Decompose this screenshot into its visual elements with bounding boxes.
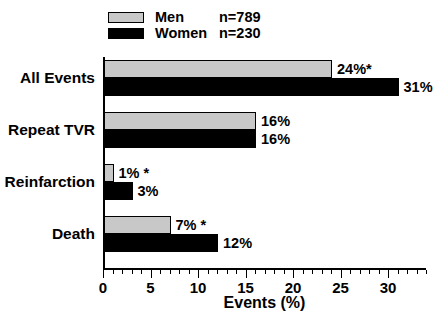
x-axis-minor-tick — [312, 270, 313, 274]
x-axis-minor-tick — [170, 270, 171, 274]
bar-men-reinfarction — [104, 164, 114, 182]
plot-area: 05101520253024%*31%16%16%1% *3%7% *12% — [103, 57, 426, 268]
y-axis-category-label: Reinfarction — [5, 173, 95, 191]
x-axis-minor-tick — [227, 270, 228, 274]
x-axis-major-tick — [246, 270, 247, 278]
x-axis-minor-tick — [284, 270, 285, 274]
bar-value-label: 7% * — [176, 217, 207, 233]
x-axis-minor-tick — [141, 270, 142, 274]
bar-women-all-events — [104, 78, 399, 96]
x-axis-major-tick — [198, 270, 199, 278]
legend-label-men: Men — [155, 11, 219, 24]
bar-women-repeat-tvr — [104, 130, 256, 148]
legend-item-women: Women n=230 — [108, 27, 261, 40]
y-axis-labels: All EventsRepeat TVRReinfarctionDeath — [0, 57, 103, 268]
x-axis-minor-tick — [265, 270, 266, 274]
x-axis-minor-tick — [236, 270, 237, 274]
y-axis-category-label: All Events — [20, 69, 95, 87]
x-axis-minor-tick — [255, 270, 256, 274]
x-axis-minor-tick — [369, 270, 370, 274]
x-axis-minor-tick — [303, 270, 304, 274]
x-axis-minor-tick — [274, 270, 275, 274]
x-axis-minor-tick — [122, 270, 123, 274]
x-axis-minor-tick — [398, 270, 399, 274]
x-axis-major-tick — [388, 270, 389, 278]
x-axis-minor-tick — [132, 270, 133, 274]
bar-value-label: 16% — [261, 131, 290, 147]
bar-value-label: 24%* — [337, 61, 372, 77]
bar-chart: Men n=789 Women n=230 All EventsRepeat T… — [0, 0, 447, 321]
x-axis-minor-tick — [350, 270, 351, 274]
bar-women-death — [104, 234, 218, 252]
y-axis-category-label: Repeat TVR — [8, 121, 95, 139]
bar-value-label: 16% — [261, 113, 290, 129]
x-axis-title: Events (%) — [103, 294, 426, 312]
bar-value-label: 31% — [404, 79, 433, 95]
x-axis-major-tick — [341, 270, 342, 278]
x-axis-minor-tick — [189, 270, 190, 274]
legend-label-women: Women — [155, 27, 219, 40]
x-axis-major-tick — [151, 270, 152, 278]
x-axis-minor-tick — [426, 270, 427, 274]
legend-count-men: n=789 — [219, 11, 261, 24]
legend-item-men: Men n=789 — [108, 11, 261, 24]
x-axis-major-tick — [103, 270, 104, 278]
bar-men-death — [104, 216, 171, 234]
legend-swatch-men — [108, 12, 144, 23]
x-axis-minor-tick — [417, 270, 418, 274]
x-axis-minor-tick — [407, 270, 408, 274]
bar-value-label: 1% * — [119, 165, 150, 181]
x-axis-minor-tick — [379, 270, 380, 274]
x-axis-minor-tick — [113, 270, 114, 274]
x-axis-minor-tick — [179, 270, 180, 274]
x-axis-minor-tick — [217, 270, 218, 274]
legend-count-women: n=230 — [219, 27, 261, 40]
x-axis-major-tick — [293, 270, 294, 278]
x-axis-minor-tick — [360, 270, 361, 274]
chart-legend: Men n=789 Women n=230 — [108, 11, 261, 40]
y-axis-category-label: Death — [52, 225, 95, 243]
legend-swatch-women — [108, 28, 144, 39]
x-axis-minor-tick — [160, 270, 161, 274]
x-axis-minor-tick — [331, 270, 332, 274]
bar-value-label: 12% — [223, 235, 252, 251]
bar-men-all-events — [104, 60, 332, 78]
bar-women-reinfarction — [104, 182, 133, 200]
bar-value-label: 3% — [138, 183, 159, 199]
x-axis-minor-tick — [322, 270, 323, 274]
bar-men-repeat-tvr — [104, 112, 256, 130]
x-axis-minor-tick — [208, 270, 209, 274]
